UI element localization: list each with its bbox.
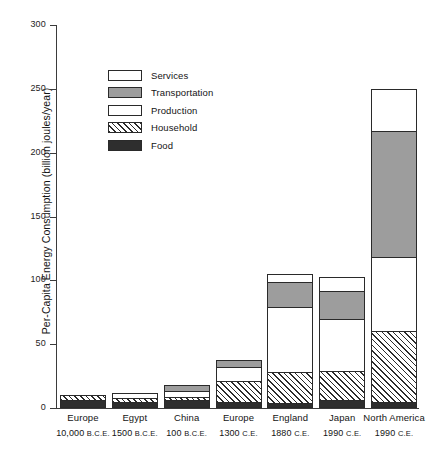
legend-item[interactable]: Production bbox=[108, 103, 248, 117]
bar-segment-household[interactable] bbox=[216, 381, 262, 401]
category-era: 1990 C.E. bbox=[357, 427, 430, 439]
y-axis-tick-label: 150 bbox=[6, 211, 46, 221]
bar-segment-services[interactable] bbox=[319, 277, 365, 291]
stacked-bar[interactable] bbox=[319, 277, 365, 408]
category-place: North America bbox=[357, 412, 430, 425]
y-axis-tick-label: 100 bbox=[6, 274, 46, 284]
bar-segment-food[interactable] bbox=[112, 402, 158, 408]
legend-label: Services bbox=[151, 70, 188, 81]
legend-label: Transportation bbox=[151, 87, 213, 98]
x-axis-line bbox=[56, 408, 419, 409]
y-axis-tick-label: 200 bbox=[6, 147, 46, 157]
chart-legend: ServicesTransportationProductionHousehol… bbox=[108, 68, 248, 156]
bar-segment-production[interactable] bbox=[319, 319, 365, 371]
stacked-bar[interactable] bbox=[164, 385, 210, 408]
bar-segment-production[interactable] bbox=[216, 367, 262, 381]
y-axis-tick-label: 0 bbox=[6, 402, 46, 412]
y-axis-tick-label: 300 bbox=[6, 19, 46, 29]
stacked-bar[interactable] bbox=[371, 89, 417, 408]
bar-segment-food[interactable] bbox=[164, 400, 210, 408]
x-axis-category-labels: Europe10,000 B.C.E.Egypt1500 B.C.E.China… bbox=[56, 412, 419, 456]
legend-swatch-food bbox=[108, 140, 142, 151]
legend-swatch-services bbox=[108, 70, 142, 81]
bar-segment-food[interactable] bbox=[216, 402, 262, 408]
legend-swatch-household bbox=[108, 122, 142, 133]
y-axis-tick-label: 250 bbox=[6, 83, 46, 93]
stacked-bar[interactable] bbox=[267, 274, 313, 408]
bar-segment-transportation[interactable] bbox=[216, 360, 262, 368]
legend-item[interactable]: Food bbox=[108, 138, 248, 152]
legend-swatch-transportation bbox=[108, 87, 142, 98]
y-axis-tick bbox=[50, 408, 56, 409]
bar-segment-household[interactable] bbox=[371, 331, 417, 401]
stacked-bar[interactable] bbox=[112, 393, 158, 408]
bar-segment-services[interactable] bbox=[267, 274, 313, 282]
legend-item[interactable]: Services bbox=[108, 68, 248, 82]
legend-item[interactable]: Transportation bbox=[108, 86, 248, 100]
bar-segment-transportation[interactable] bbox=[319, 291, 365, 319]
bar-segment-food[interactable] bbox=[60, 400, 106, 408]
bar-segment-transportation[interactable] bbox=[371, 131, 417, 257]
bar-segment-food[interactable] bbox=[267, 403, 313, 408]
legend-swatch-production bbox=[108, 105, 142, 116]
x-axis-category-label: North America1990 C.E. bbox=[357, 412, 430, 439]
bar-segment-services[interactable] bbox=[371, 89, 417, 131]
legend-label: Production bbox=[151, 105, 197, 116]
legend-item[interactable]: Household bbox=[108, 121, 248, 135]
stacked-bar[interactable] bbox=[216, 360, 262, 408]
stacked-bar[interactable] bbox=[60, 395, 106, 408]
y-axis-tick-label: 50 bbox=[6, 338, 46, 348]
legend-label: Household bbox=[151, 122, 197, 133]
bar-segment-transportation[interactable] bbox=[267, 282, 313, 308]
bar-segment-production[interactable] bbox=[267, 307, 313, 372]
bar-segment-household[interactable] bbox=[319, 371, 365, 400]
bar-segment-production[interactable] bbox=[371, 257, 417, 331]
legend-label: Food bbox=[151, 140, 173, 151]
bar-segment-household[interactable] bbox=[267, 372, 313, 403]
bar-segment-food[interactable] bbox=[319, 400, 365, 408]
bar-segment-food[interactable] bbox=[371, 402, 417, 408]
